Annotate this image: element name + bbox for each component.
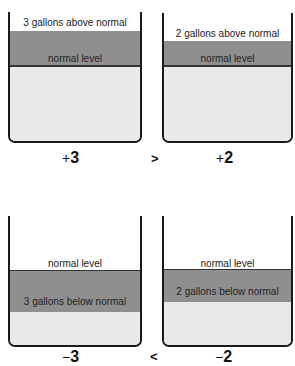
above-normal-label: 3 gallons above normal — [10, 17, 140, 28]
water-fill — [10, 312, 140, 345]
tank-minus-2: normal level 2 gallons below normal — [162, 216, 293, 347]
normal-level-label: normal level — [10, 258, 140, 269]
tank-minus-3: normal level 3 gallons below normal — [8, 216, 142, 347]
value-plus-2: +2 — [216, 149, 233, 167]
above-normal-label: 2 gallons above normal — [164, 28, 291, 39]
value-plus-3: +3 — [62, 149, 79, 167]
water-fill — [164, 302, 291, 345]
value-minus-3: −3 — [62, 348, 79, 366]
below-normal-label: 2 gallons below normal — [164, 286, 291, 297]
below-normal-label: 3 gallons below normal — [10, 296, 140, 307]
normal-level-label: normal level — [164, 53, 291, 64]
water-fill — [10, 67, 140, 141]
less-than-symbol: < — [150, 349, 158, 364]
greater-than-symbol: > — [151, 151, 159, 166]
normal-level-label: normal level — [10, 53, 140, 64]
tank-plus-2: 2 gallons above normal normal level — [162, 13, 293, 143]
water-fill — [164, 67, 291, 141]
normal-level-label: normal level — [164, 258, 291, 269]
tank-plus-3: 3 gallons above normal normal level — [8, 12, 142, 143]
value-minus-2: −2 — [215, 348, 232, 366]
